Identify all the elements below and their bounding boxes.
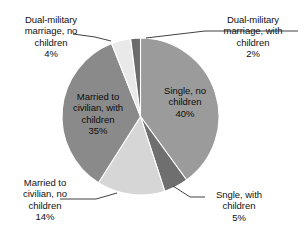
- slice-label-dual-military-with-children: Dual-military marriage, with children 2%: [205, 14, 301, 60]
- slice-label-civilian-with-children: Married to civilian, with children 35%: [58, 91, 138, 137]
- pie-chart: Single, no children 40% Married to civil…: [0, 0, 305, 241]
- slice-label-single-no-children: Single, no children 40%: [148, 85, 222, 119]
- slice-label-civilian-no-children: Married to civilian, no children 14%: [2, 177, 88, 223]
- slice-label-dual-military-no-children: Dual-military marriage, no children 4%: [6, 14, 96, 60]
- slice-label-single-with-children: Sngle, with children 5%: [196, 189, 282, 223]
